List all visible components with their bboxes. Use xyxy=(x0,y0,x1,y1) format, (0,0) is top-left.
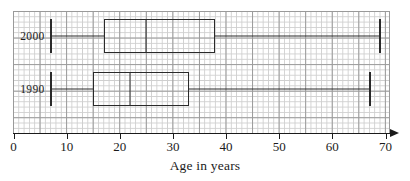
boxplot-chart: 20001990 010203040506070 Age in years xyxy=(0,0,410,181)
x-tick-label-70: 70 xyxy=(379,139,392,154)
x-tick-label-10: 10 xyxy=(60,139,73,154)
whisker-cap-min-2000 xyxy=(50,19,52,53)
row-label-1990: 1990 xyxy=(20,83,44,95)
median-line-2000 xyxy=(146,19,147,53)
x-tick-label-50: 50 xyxy=(273,139,286,154)
whisker-left-1990 xyxy=(51,89,94,90)
box-1990 xyxy=(93,72,189,106)
whisker-cap-max-2000 xyxy=(379,19,381,53)
x-tick-label-0: 0 xyxy=(10,139,17,154)
x-tick-label-30: 30 xyxy=(166,139,179,154)
median-line-1990 xyxy=(130,72,131,106)
x-tick-label-20: 20 xyxy=(113,139,126,154)
box-2000 xyxy=(104,19,216,53)
x-tick-label-40: 40 xyxy=(220,139,233,154)
whisker-cap-max-1990 xyxy=(369,72,371,106)
x-axis-title: Age in years xyxy=(0,158,410,174)
x-axis-line xyxy=(13,133,392,134)
x-axis-arrow-icon xyxy=(390,129,399,137)
row-label-2000: 2000 xyxy=(20,30,44,42)
whisker-left-2000 xyxy=(51,36,104,37)
whisker-right-2000 xyxy=(215,36,380,37)
x-tick-label-60: 60 xyxy=(326,139,339,154)
whisker-right-1990 xyxy=(189,89,370,90)
whisker-cap-min-1990 xyxy=(50,72,52,106)
